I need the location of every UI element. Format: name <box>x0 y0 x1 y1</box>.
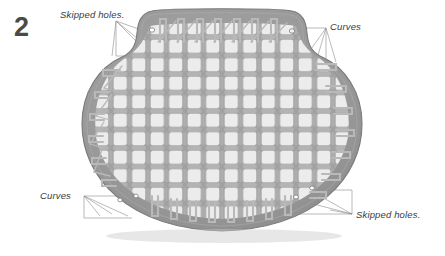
step-number: 2 <box>14 14 29 41</box>
annotation-curves-top-right: Curves <box>330 21 361 32</box>
figure-canvas: 2 Skipped holes. Curves Curves Skipped h… <box>0 0 445 256</box>
seat-shadow <box>106 229 342 243</box>
annotation-curves-bottom-left: Curves <box>40 190 71 201</box>
annotation-skipped-holes-bottom-right: Skipped holes. <box>356 209 420 220</box>
annotation-skipped-holes-top-left: Skipped holes. <box>60 9 124 20</box>
